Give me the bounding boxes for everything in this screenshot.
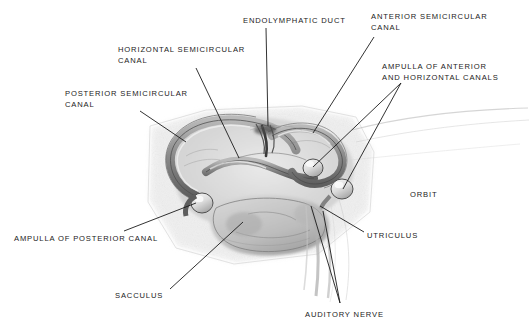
label-line: AMPULLA OF POSTERIOR CANAL: [14, 234, 158, 243]
label-line: ORBIT: [410, 190, 437, 199]
leader-line-horizontal-semicircular-canal: [196, 68, 239, 158]
leader-line-auditory-nerve: [323, 211, 340, 303]
label-line: CANAL: [65, 100, 95, 109]
label-line: ANTERIOR SEMICIRCULAR: [371, 12, 488, 21]
label-line: CANAL: [118, 56, 148, 65]
label-line: HORIZONTAL SEMICIRCULAR: [118, 45, 245, 54]
label-utriculus: UTRICULUS: [367, 231, 418, 242]
leader-line-ampulla-of-posterior-canal: [124, 203, 196, 231]
label-posterior-semicircular-canal: POSTERIOR SEMICIRCULARCANAL: [65, 89, 188, 110]
label-line: AUDITORY NERVE: [305, 310, 384, 319]
anatomical-figure: ENDOLYMPHATIC DUCTANTERIOR SEMICIRCULARC…: [0, 0, 531, 330]
leader-line-ampulla-of-anterior-and-horizontal-canals: [313, 83, 401, 167]
leader-line-posterior-semicircular-canal: [140, 111, 186, 142]
leader-line-anterior-semicircular-canal: [313, 37, 374, 133]
label-line: POSTERIOR SEMICIRCULAR: [65, 89, 188, 98]
label-line: AMPULLA OF ANTERIOR: [382, 62, 487, 71]
label-anterior-semicircular-canal: ANTERIOR SEMICIRCULARCANAL: [371, 12, 488, 33]
label-horizontal-semicircular-canal: HORIZONTAL SEMICIRCULARCANAL: [118, 45, 245, 66]
leader-line-sacculus: [170, 222, 243, 289]
label-ampulla-of-posterior-canal: AMPULLA OF POSTERIOR CANAL: [14, 234, 158, 245]
label-sacculus: SACCULUS: [115, 291, 163, 302]
leader-line-endolymphatic-duct: [266, 28, 268, 126]
label-auditory-nerve: AUDITORY NERVE: [305, 310, 384, 321]
leader-line-ampulla-of-anterior-and-horizontal-canals: [343, 83, 401, 189]
label-orbit: ORBIT: [410, 190, 437, 201]
label-line: ENDOLYMPHATIC DUCT: [243, 16, 346, 25]
label-line: SACCULUS: [115, 291, 163, 300]
label-line: UTRICULUS: [367, 231, 418, 240]
label-ampulla-of-anterior-and-horizontal-canals: AMPULLA OF ANTERIORAND HORIZONTAL CANALS: [382, 62, 499, 83]
leader-line-auditory-nerve: [311, 206, 340, 303]
label-line: AND HORIZONTAL CANALS: [382, 73, 499, 82]
leader-lines: [0, 0, 531, 330]
label-line: CANAL: [371, 23, 401, 32]
label-endolymphatic-duct: ENDOLYMPHATIC DUCT: [243, 16, 346, 27]
